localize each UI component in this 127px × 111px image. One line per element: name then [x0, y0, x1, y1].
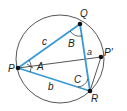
label-angle-c: C — [74, 74, 82, 85]
label-q: Q — [80, 8, 88, 19]
label-side-c: c — [42, 36, 47, 47]
angle-arc-b — [70, 31, 82, 36]
triangle-inscribed-circle-diagram: P Q R P' c a b A B C — [0, 0, 127, 111]
label-p: P — [8, 63, 15, 74]
point-q — [78, 22, 83, 27]
point-p — [16, 66, 21, 71]
label-angle-a: A — [36, 61, 44, 72]
side-a — [80, 24, 90, 91]
label-side-b: b — [48, 81, 54, 92]
chord-pprime-r — [90, 57, 101, 91]
point-p-prime — [99, 55, 104, 60]
label-side-a: a — [87, 47, 92, 57]
label-r: R — [91, 93, 98, 104]
label-p-prime: P' — [104, 47, 114, 58]
label-angle-b: B — [68, 38, 75, 49]
